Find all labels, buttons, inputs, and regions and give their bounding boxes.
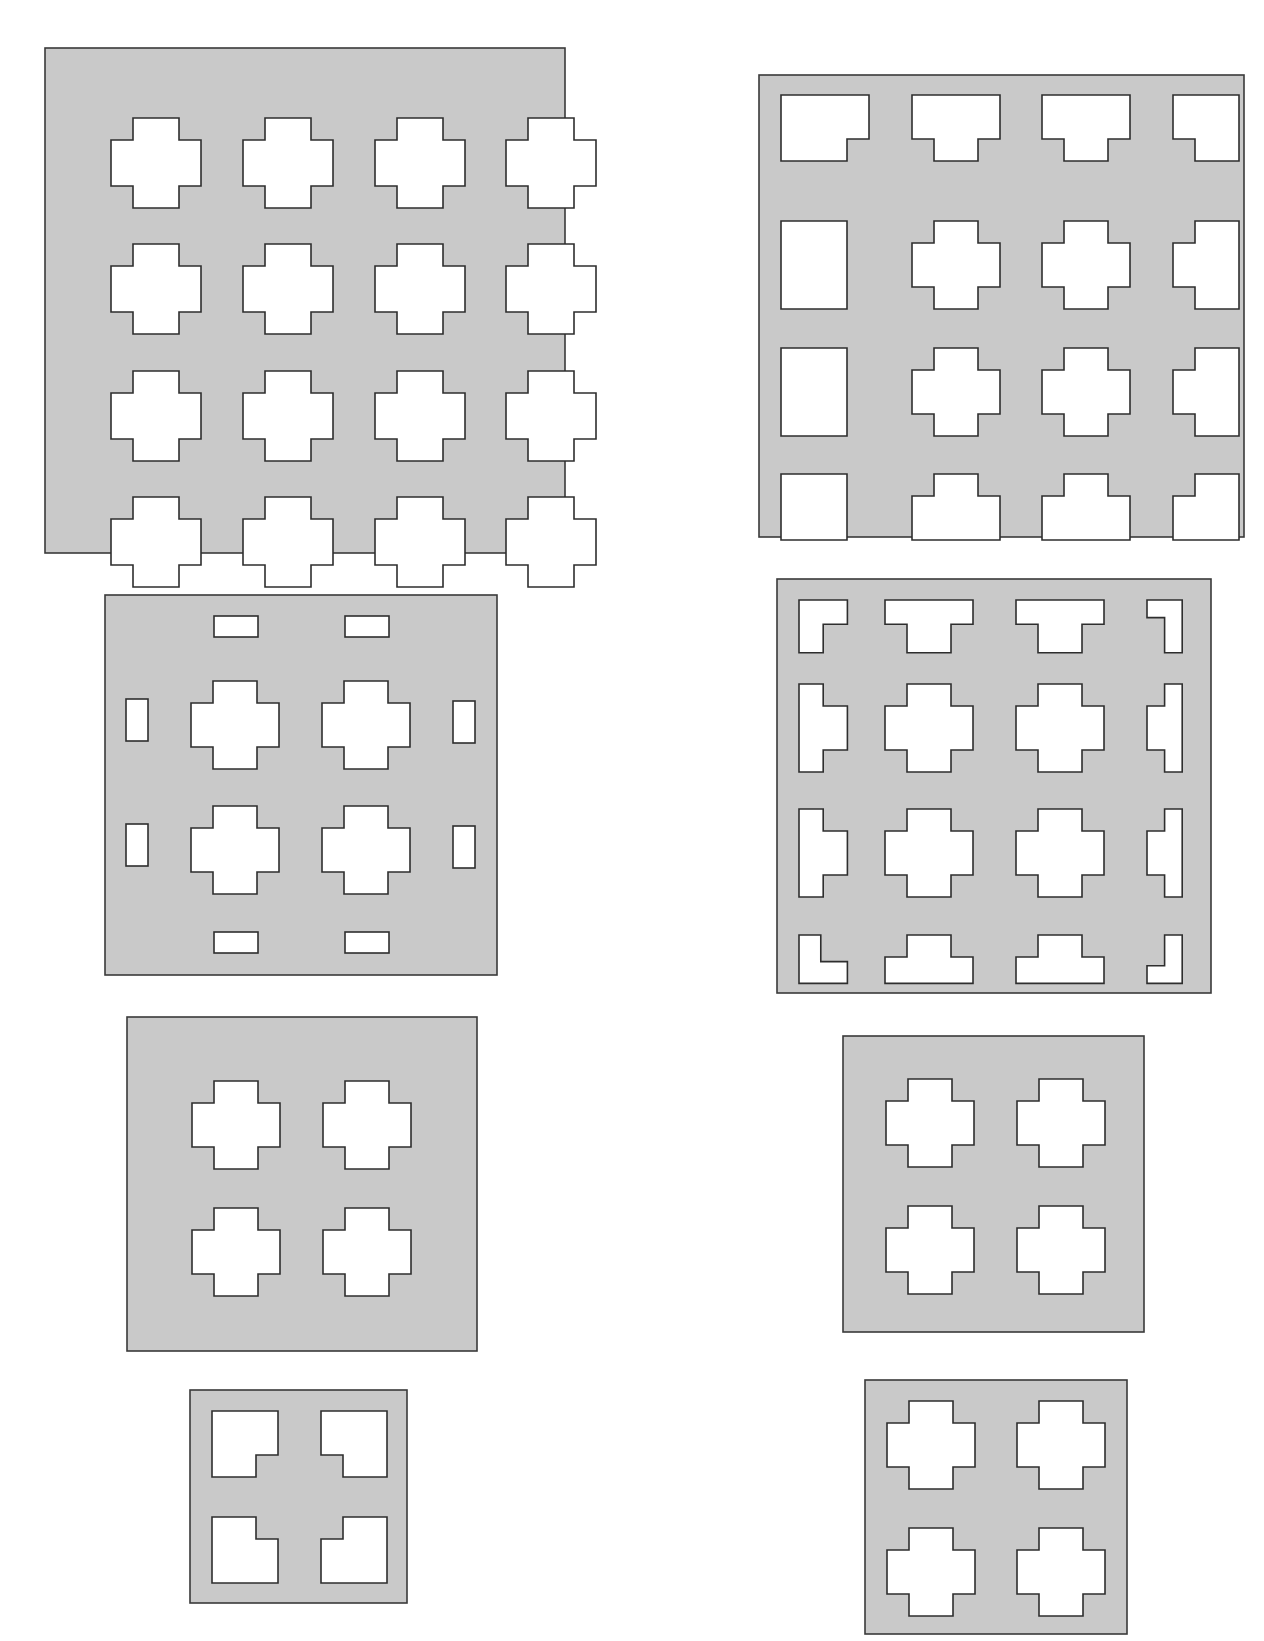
- plate-panel: [843, 1036, 1144, 1332]
- plate-panel: [45, 48, 596, 587]
- plate-background: [865, 1380, 1127, 1634]
- partial-cutout: [781, 474, 847, 540]
- slot-cutout: [126, 699, 148, 741]
- figure-canvas: [0, 0, 1264, 1641]
- slot-cutout: [214, 932, 258, 953]
- partial-cutout: [781, 221, 847, 309]
- plate-panel: [105, 595, 497, 975]
- partial-cutout: [781, 348, 847, 436]
- slot-cutout: [453, 826, 475, 868]
- slot-cutout: [214, 616, 258, 637]
- plate-panel: [865, 1380, 1127, 1634]
- slot-cutout: [345, 616, 389, 637]
- plate-background: [127, 1017, 477, 1351]
- plate-background: [105, 595, 497, 975]
- plate-background: [777, 579, 1211, 993]
- plate-panel: [127, 1017, 477, 1351]
- slot-cutout: [126, 824, 148, 866]
- slot-cutout: [345, 932, 389, 953]
- plate-panel: [759, 75, 1244, 540]
- plate-panel: [190, 1390, 407, 1603]
- plate-panel: [777, 579, 1211, 993]
- slot-cutout: [453, 701, 475, 743]
- plate-background: [843, 1036, 1144, 1332]
